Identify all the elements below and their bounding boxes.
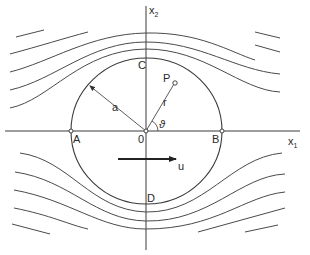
point-P-label: P [163, 72, 170, 84]
point-A-label: A [73, 133, 81, 145]
streamline [198, 208, 285, 232]
velocity-label: u [178, 160, 184, 172]
streamline [12, 224, 50, 234]
streamline [245, 225, 278, 232]
origin-marker [144, 129, 148, 133]
streamline [255, 45, 280, 52]
x2-axis-label: x2 [149, 4, 159, 18]
radius-a-label: a [112, 101, 119, 113]
point-C-label: C [138, 59, 146, 71]
theta-angle-arc [152, 121, 158, 131]
theta-label: ϑ [159, 118, 166, 130]
point-B-label: B [212, 133, 219, 145]
point-D-label: D [147, 192, 155, 204]
cylinder-flow-diagram: x2 x1 a P [0, 0, 310, 255]
streamline [16, 30, 44, 37]
origin-label: 0 [138, 133, 144, 145]
point-P-marker [173, 81, 177, 85]
streamline [255, 32, 280, 38]
streamline [10, 33, 255, 72]
point-B-marker [220, 129, 224, 133]
axes: x2 x1 [5, 4, 300, 250]
x1-axis-label: x1 [288, 135, 298, 149]
r-label: r [163, 96, 167, 108]
streamline [14, 208, 88, 229]
